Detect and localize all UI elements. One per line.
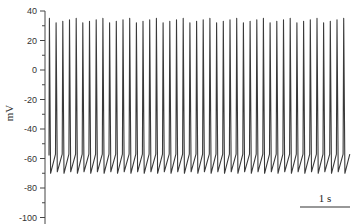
y-tick-label: -40 [24,124,37,134]
y-tick-label: -60 [24,154,37,164]
y-tick-label: 0 [32,65,37,75]
y-tick-label: -20 [24,95,37,105]
y-axis: 40200-20-40-60-80-100 [19,6,45,224]
y-tick-label: 20 [27,36,37,46]
voltage-trace-chart: 40200-20-40-60-80-100 mV 1 s [0,0,357,224]
y-tick-label: 40 [27,6,37,16]
membrane-potential-trace [49,18,350,173]
y-tick-label: -80 [24,183,37,193]
y-tick-label: -100 [19,213,37,223]
time-scale-bar-label: 1 s [319,192,332,204]
y-axis-label: mV [3,105,15,122]
